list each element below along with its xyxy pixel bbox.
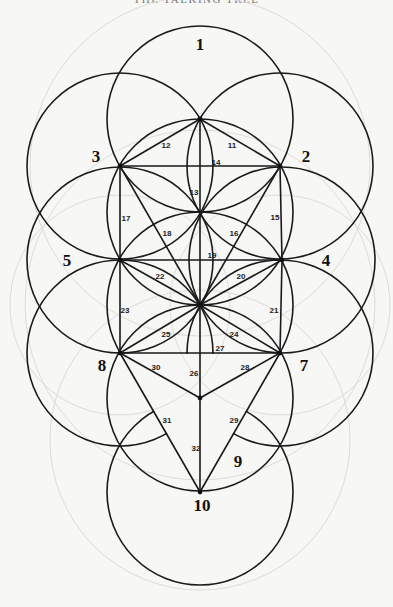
node-6 xyxy=(198,303,203,308)
sephirah-label-8: 8 xyxy=(98,356,107,375)
path-21 xyxy=(280,260,282,353)
node-9 xyxy=(198,396,203,401)
path-label-29: 29 xyxy=(230,416,239,425)
path-label-13: 13 xyxy=(190,188,199,197)
path-label-22: 22 xyxy=(156,272,165,281)
path-label-12: 12 xyxy=(162,141,171,150)
node-8 xyxy=(118,351,123,356)
labels: 1112131415161718192021222324252627282930… xyxy=(63,35,331,515)
node-4 xyxy=(280,258,285,263)
path-29 xyxy=(200,353,280,492)
path-label-17: 17 xyxy=(122,214,131,223)
path-label-18: 18 xyxy=(163,229,172,238)
sephirah-label-10: 10 xyxy=(194,496,211,515)
sephirah-label-1: 1 xyxy=(196,35,205,54)
path-label-32: 32 xyxy=(192,444,201,453)
path-label-20: 20 xyxy=(237,272,246,281)
path-22 xyxy=(120,260,200,305)
path-label-23: 23 xyxy=(121,306,130,315)
path-label-26: 26 xyxy=(190,369,199,378)
path-label-31: 31 xyxy=(163,416,172,425)
sephirah-nodes xyxy=(118,117,285,495)
node-7 xyxy=(278,351,283,356)
path-label-21: 21 xyxy=(270,306,279,315)
node-3 xyxy=(118,164,123,169)
path-label-14: 14 xyxy=(212,158,221,167)
tree-of-life-diagram: 1112131415161718192021222324252627282930… xyxy=(0,0,393,607)
sephirah-label-3: 3 xyxy=(92,147,101,166)
sephirah-label-4: 4 xyxy=(322,251,331,270)
sephirah-label-7: 7 xyxy=(300,356,309,375)
path-label-27: 27 xyxy=(216,344,225,353)
path-label-28: 28 xyxy=(241,363,250,372)
node-1 xyxy=(198,117,203,122)
node-2 xyxy=(278,164,283,169)
path-16 xyxy=(200,166,280,305)
path-label-24: 24 xyxy=(230,330,239,339)
sephirah-label-9: 9 xyxy=(234,452,243,471)
node-5 xyxy=(118,258,123,263)
path-label-25: 25 xyxy=(162,330,171,339)
path-label-19: 19 xyxy=(208,251,217,260)
path-label-11: 11 xyxy=(228,141,237,150)
path-18 xyxy=(120,166,200,305)
path-15 xyxy=(280,166,282,260)
path-label-30: 30 xyxy=(152,363,161,372)
path-label-15: 15 xyxy=(271,213,280,222)
path-label-16: 16 xyxy=(230,229,239,238)
sephirah-label-5: 5 xyxy=(63,251,72,270)
sephirah-label-2: 2 xyxy=(302,147,311,166)
node-10 xyxy=(198,490,203,495)
path-31 xyxy=(120,353,200,492)
